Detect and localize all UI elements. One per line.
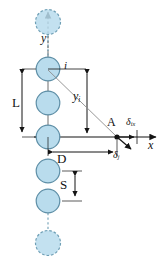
pile-2 <box>36 91 60 115</box>
label-x-axis: x <box>148 139 153 151</box>
label-delta-ix-sub: ix <box>131 120 135 127</box>
label-y-i-sub: i <box>78 95 80 104</box>
label-delta-ix: δix <box>126 117 135 128</box>
pile-5 <box>36 189 60 213</box>
label-L: L <box>12 96 20 109</box>
pile-bottom-ghost <box>36 231 61 256</box>
label-D: D <box>57 152 66 165</box>
label-pile-index-i: i <box>64 60 67 71</box>
pile-top-ghost <box>36 10 61 35</box>
label-y-i: yi <box>73 90 80 103</box>
figure-canvas: L y x i A yi D S δix δj <box>0 0 162 265</box>
label-delta-j-sub: j <box>118 153 120 160</box>
label-delta-j: δj <box>113 150 119 161</box>
label-y-axis: y <box>41 32 46 44</box>
diagram-svg <box>0 0 162 265</box>
L-dimension-line <box>22 69 36 137</box>
label-S: S <box>60 178 67 191</box>
label-point-A: A <box>107 116 116 128</box>
delta-j-vector <box>117 137 131 149</box>
delta-ix-vector <box>117 130 137 144</box>
